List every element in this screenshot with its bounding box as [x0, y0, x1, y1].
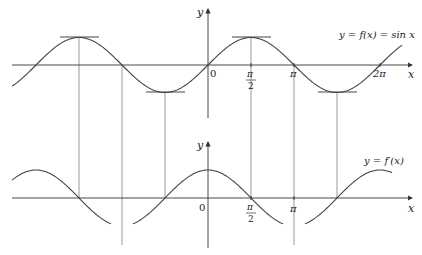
bottom-half-pi-den: 2 [248, 214, 254, 224]
bottom-x-label: x [408, 202, 415, 215]
sin-derivative-figure: y x 0 π 2 π 2π y = f(x) = sin x y x 0 π … [0, 0, 422, 255]
top-half-pi-den: 2 [248, 81, 254, 91]
top-function-label: y = f(x) = sin x [338, 29, 415, 40]
bottom-graph: y x 0 π 2 π y = f′(x) [12, 139, 415, 248]
top-graph: y x 0 π 2 π 2π y = f(x) = sin x [12, 6, 415, 118]
cosine-curve [12, 170, 392, 224]
top-origin-label: 0 [210, 68, 216, 79]
top-y-label: y [196, 6, 204, 19]
top-two-pi-label: 2π [372, 68, 386, 79]
bottom-y-label: y [196, 139, 204, 152]
top-half-pi-num: π [246, 69, 254, 79]
bottom-origin-label: 0 [199, 202, 205, 213]
bottom-function-label: y = f′(x) [363, 155, 404, 166]
top-pi-label: π [289, 68, 297, 79]
bottom-pi-label: π [289, 203, 297, 214]
bottom-half-pi-num: π [246, 202, 254, 212]
top-x-label: x [408, 68, 415, 81]
